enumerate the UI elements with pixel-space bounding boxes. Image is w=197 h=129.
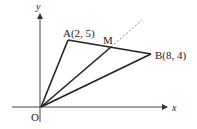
geometry-diagram: x y O A(2, 5) M B(8, 4) <box>0 0 197 129</box>
x-axis-label: x <box>171 102 177 113</box>
om-dashed-extension <box>111 20 142 47</box>
y-axis-label: y <box>35 1 41 12</box>
point-b-label: B(8, 4) <box>155 49 187 62</box>
origin-label: O <box>31 111 39 123</box>
segment-om <box>41 47 111 107</box>
segment-ob <box>41 54 151 107</box>
point-a-label: A(2, 5) <box>63 27 95 40</box>
point-m-label: M <box>103 34 113 46</box>
segment-oa <box>41 40 68 107</box>
